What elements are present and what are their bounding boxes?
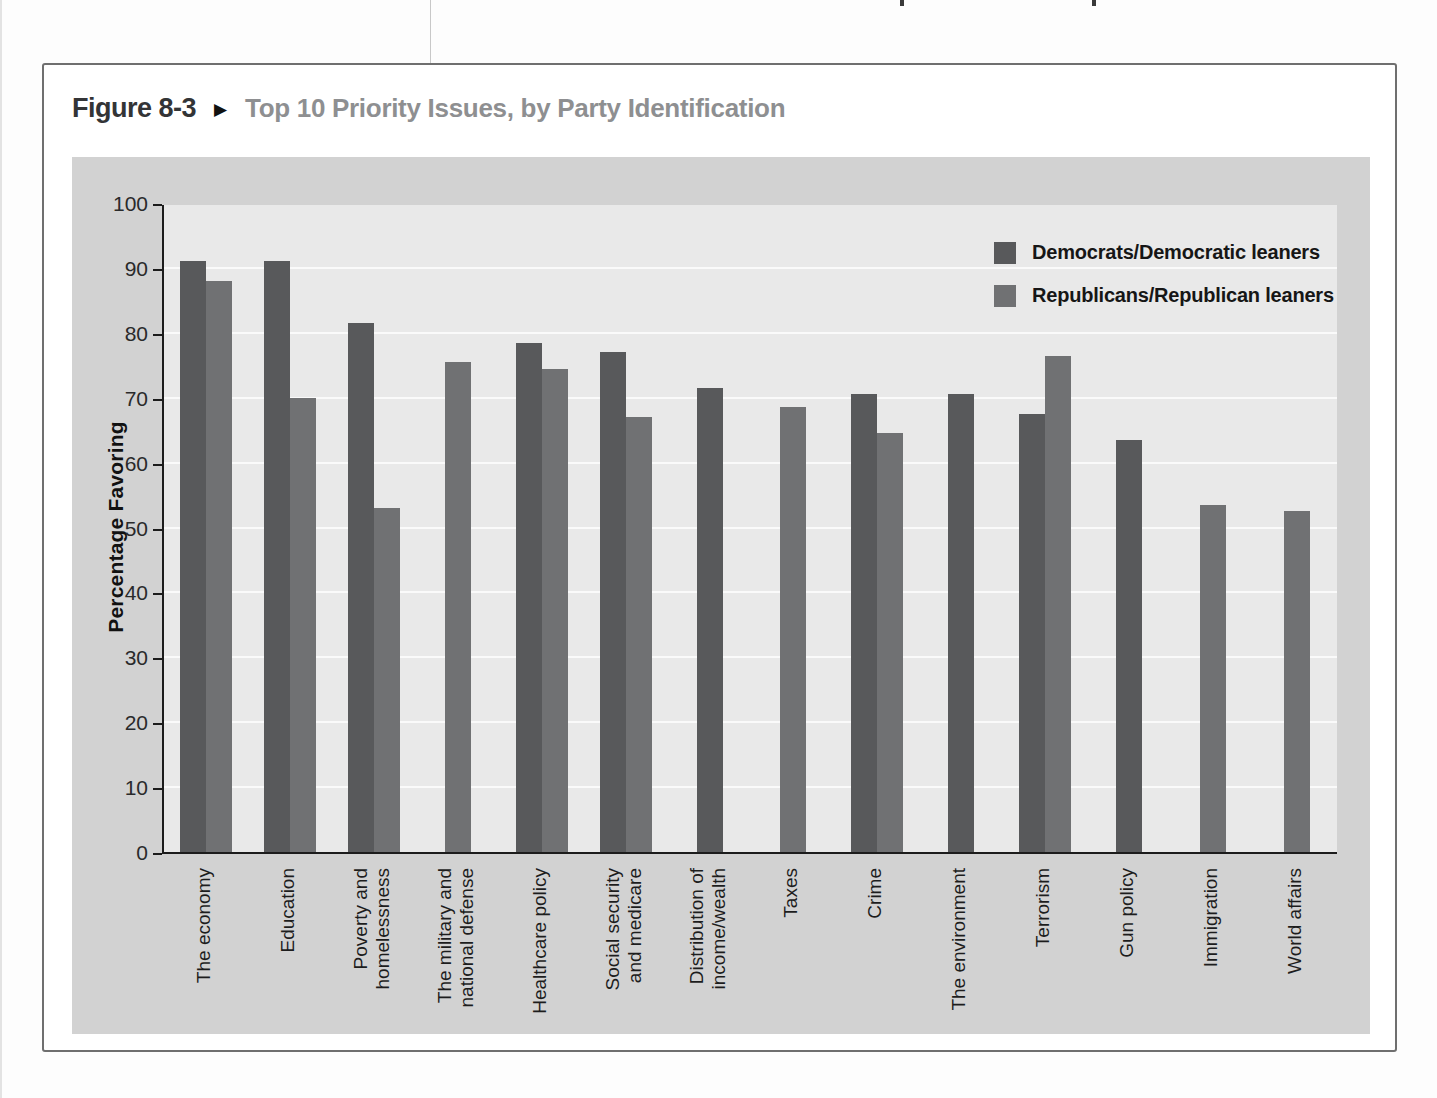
chart-panel: Percentage Favoring Democrats/Democratic… [72, 157, 1370, 1034]
legend-swatch [994, 242, 1016, 264]
legend-swatch [994, 285, 1016, 307]
y-tick-mark [153, 658, 162, 660]
figure-title: Top 10 Priority Issues, by Party Identif… [245, 93, 785, 124]
gridline [164, 397, 1337, 399]
bar-democrats-distribution-of [697, 388, 723, 852]
y-tick-mark [153, 788, 162, 790]
y-tick-label: 20 [86, 711, 148, 735]
gridline [164, 721, 1337, 723]
y-tick-mark [153, 853, 162, 855]
legend: Democrats/Democratic leaners Republicans… [994, 241, 1334, 307]
bar-republicans-terrorism [1045, 356, 1071, 852]
bar-republicans-social-security [626, 417, 652, 852]
bar-republicans-crime [877, 433, 903, 852]
figure-arrow-icon: ▶ [214, 99, 227, 120]
bar-democrats-the-economy [180, 261, 206, 852]
y-tick-label: 10 [86, 776, 148, 800]
bar-republicans-education [290, 398, 316, 852]
x-category-label: Healthcare policy [516, 868, 564, 1038]
y-tick-label: 50 [86, 517, 148, 541]
bar-democrats-education [264, 261, 290, 852]
gridline [164, 462, 1337, 464]
column-rule-artifact [430, 0, 431, 64]
x-category-label: Social securityand medicare [600, 868, 648, 1038]
y-tick-label: 90 [86, 257, 148, 281]
x-category-label: Distribution ofincome/wealth [684, 868, 732, 1038]
gridline [164, 267, 1337, 269]
x-category-label: Poverty andhomelessness [348, 868, 396, 1038]
x-category-label: Taxes [767, 868, 815, 1038]
bar-democrats-the-environment [948, 394, 974, 852]
bar-republicans-the-economy [206, 281, 232, 852]
bar-democrats-crime [851, 394, 877, 852]
x-category-label: World affairs [1271, 868, 1319, 1038]
bar-republicans-taxes [780, 407, 806, 852]
scan-artifact [900, 0, 904, 6]
y-tick-mark [153, 204, 162, 206]
figure-header: Figure 8-3 ▶ Top 10 Priority Issues, by … [72, 93, 785, 124]
x-category-label: The environment [935, 868, 983, 1038]
y-tick-mark [153, 269, 162, 271]
bar-democrats-gun-policy [1116, 440, 1142, 852]
gridline [164, 656, 1337, 658]
bar-democrats-poverty-and [348, 323, 374, 852]
page-edge-shadow [0, 0, 2, 1098]
x-category-label: Education [264, 868, 312, 1038]
bar-democrats-healthcare-policy [516, 343, 542, 852]
x-category-label: Immigration [1187, 868, 1235, 1038]
legend-label: Republicans/Republican leaners [1032, 284, 1334, 307]
bar-democrats-social-security [600, 352, 626, 852]
y-tick-mark [153, 334, 162, 336]
gridline [164, 786, 1337, 788]
bar-republicans-immigration [1200, 505, 1226, 852]
plot-area: Democrats/Democratic leaners Republicans… [162, 205, 1337, 854]
bar-republicans-the-military-and [445, 362, 471, 852]
scanned-page: Figure 8-3 ▶ Top 10 Priority Issues, by … [0, 0, 1437, 1098]
y-tick-label: 60 [86, 452, 148, 476]
gridline [164, 527, 1337, 529]
legend-item-republicans: Republicans/Republican leaners [994, 284, 1334, 307]
y-tick-mark [153, 529, 162, 531]
gridline [164, 591, 1337, 593]
x-category-label: Gun policy [1103, 868, 1151, 1038]
x-category-label: The military andnational defense [432, 868, 480, 1038]
y-tick-label: 80 [86, 322, 148, 346]
legend-item-democrats: Democrats/Democratic leaners [994, 241, 1334, 264]
x-category-label: Terrorism [1019, 868, 1067, 1038]
y-tick-mark [153, 723, 162, 725]
y-tick-label: 0 [86, 841, 148, 865]
bar-democrats-terrorism [1019, 414, 1045, 852]
figure-number: Figure 8-3 [72, 93, 196, 124]
figure-box: Figure 8-3 ▶ Top 10 Priority Issues, by … [42, 63, 1397, 1052]
bar-republicans-world-affairs [1284, 511, 1310, 852]
x-category-label: Crime [851, 868, 899, 1038]
legend-label: Democrats/Democratic leaners [1032, 241, 1320, 264]
y-tick-mark [153, 593, 162, 595]
y-tick-mark [153, 464, 162, 466]
y-tick-label: 70 [86, 387, 148, 411]
y-tick-label: 30 [86, 646, 148, 670]
bar-republicans-healthcare-policy [542, 369, 568, 853]
y-tick-label: 40 [86, 581, 148, 605]
scan-artifact [1092, 0, 1096, 6]
x-category-label: The economy [180, 868, 228, 1038]
bar-republicans-poverty-and [374, 508, 400, 852]
y-tick-label: 100 [86, 192, 148, 216]
gridline [164, 332, 1337, 334]
y-tick-mark [153, 399, 162, 401]
